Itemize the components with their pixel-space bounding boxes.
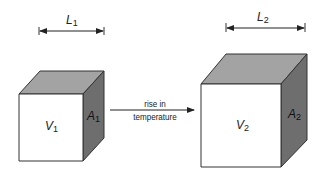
length-label-1: L1 xyxy=(66,14,78,28)
area-label-1: A1 xyxy=(87,110,100,124)
arrow-label-line1: rise in xyxy=(125,99,185,109)
length-dimension-1 xyxy=(39,27,104,35)
length-label-2: L2 xyxy=(257,11,269,25)
arrow-label-line2: temperature xyxy=(122,112,188,122)
volume-label-1: V1 xyxy=(45,120,58,134)
diagram-canvas xyxy=(0,0,326,177)
volume-label-2: V2 xyxy=(236,119,249,133)
area-label-2: A2 xyxy=(288,108,301,122)
